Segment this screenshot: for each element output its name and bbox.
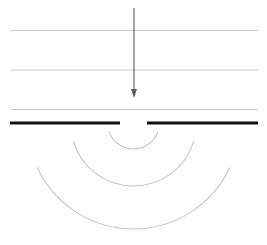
circular-wavefront-3	[37, 168, 229, 229]
diffraction-diagram-svg	[0, 0, 267, 245]
circular-wavefront-1	[109, 132, 158, 149]
propagation-direction-arrow	[131, 8, 137, 98]
circular-wavefront-arc-group	[37, 132, 229, 229]
arrow-head	[131, 89, 137, 98]
circular-wavefront-2	[73, 141, 194, 186]
diffraction-diagram-canvas: Single-slit wave diffraction Plane wavef…	[0, 0, 267, 245]
